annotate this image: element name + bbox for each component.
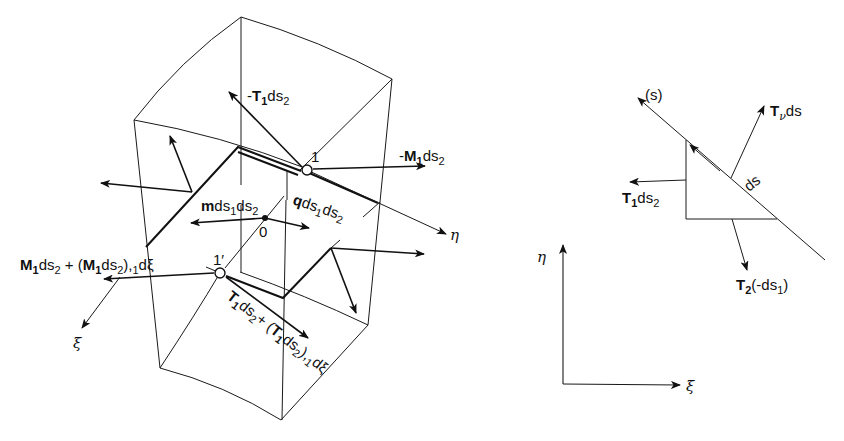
label-ds: ds <box>740 171 763 194</box>
ds-tangent-arrow <box>690 145 720 171</box>
neg-M1-arrow <box>313 166 425 169</box>
shell-element-force-diagram: -T1ds2 1 -M1ds2 mds1ds2 0 qds1ds2 η ξ 1′… <box>0 0 844 441</box>
right-edge-normal-arrow <box>331 248 356 313</box>
label-eta-reference: η <box>537 248 546 266</box>
left-edge-moment-arrow <box>101 183 192 192</box>
T1-ds2-arrow <box>630 180 686 182</box>
node-1-prime-marker <box>215 268 225 278</box>
node-1-marker <box>302 165 312 175</box>
right-edge-moment-arrow <box>331 248 424 254</box>
label-node-1-prime: 1′ <box>213 251 224 268</box>
label-eta-axis: η <box>450 226 459 244</box>
m-vector-arrow <box>191 218 265 223</box>
label-T2-neg-ds1: T2(-ds1) <box>736 276 788 296</box>
label-T1-ds2: T1ds2 <box>622 189 659 209</box>
label-neg-T1-ds2: -T1ds2 <box>247 87 289 107</box>
label-M1-increment: M1ds2 + (M1ds2),1dξ <box>20 256 154 276</box>
xi-reference-axis <box>563 384 680 385</box>
xi-axis-arrow <box>82 277 120 328</box>
T2-neg-ds1-arrow <box>732 219 747 270</box>
left-edge-normal-arrow <box>170 136 192 192</box>
label-xi-axis: ξ <box>73 334 82 352</box>
point-0-marker <box>262 215 268 221</box>
q-vector-arrow <box>265 218 309 228</box>
label-node-1: 1 <box>311 148 319 165</box>
label-m-ds1-ds2: mds1ds2 <box>201 197 258 217</box>
label-T-nu-ds: Tνds <box>770 102 802 123</box>
T-nu-ds-arrow <box>731 106 764 178</box>
s-boundary-line <box>638 98 825 260</box>
label-xi-reference: ξ <box>686 377 695 395</box>
label-s-line: (s) <box>645 86 663 103</box>
label-q-ds1-ds2: qds1ds2 <box>290 191 347 226</box>
label-point-0: 0 <box>259 223 267 240</box>
reference-axes <box>563 245 680 385</box>
label-T1-increment: T1ds2+ (T1ds2),1dξ <box>222 287 331 379</box>
boundary-triangle-diagram <box>630 98 825 270</box>
label-neg-M1-ds2: -M1ds2 <box>399 147 445 167</box>
